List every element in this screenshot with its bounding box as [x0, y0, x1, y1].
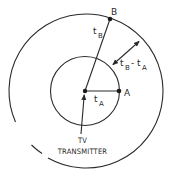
signal-propagation-diagram: B A t B t A t B - t A TV TRANSMITTER [0, 0, 175, 183]
difference-double-arrow [113, 42, 139, 65]
svg-text:t: t [120, 58, 124, 68]
transmitter-center-dot [83, 89, 87, 93]
svg-text:t: t [137, 58, 141, 68]
svg-text:t: t [93, 26, 97, 36]
svg-text:TRANSMITTER: TRANSMITTER [57, 147, 108, 156]
point-a-label: A [124, 88, 131, 98]
point-a-dot [117, 89, 122, 94]
svg-text:t: t [94, 94, 98, 104]
svg-text:-: - [131, 58, 134, 68]
svg-text:B: B [125, 64, 130, 72]
transmitter-pointer-arrow [81, 95, 84, 134]
svg-text:B: B [98, 32, 103, 40]
tv-transmitter-caption: TV TRANSMITTER [57, 136, 108, 156]
t-b-minus-t-a-label: t B - t A [120, 58, 147, 72]
point-b-dot [108, 17, 113, 22]
radius-line-to-b [85, 19, 110, 91]
svg-text:TV: TV [77, 136, 87, 145]
svg-text:A: A [142, 64, 147, 72]
point-b-label: B [111, 7, 117, 17]
svg-text:A: A [99, 100, 104, 108]
t-a-label: t A [94, 94, 104, 108]
t-b-label: t B [93, 26, 103, 40]
